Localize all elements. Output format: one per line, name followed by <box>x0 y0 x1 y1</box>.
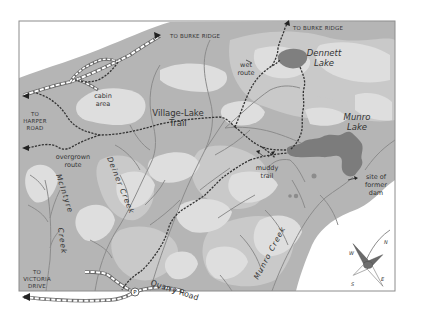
label-cabin-area-2: area <box>96 100 111 108</box>
label-munro-lake-2: Lake <box>347 122 367 132</box>
label-to-harper-road-3: ROAD <box>27 125 44 131</box>
label-cabin-area-1: cabin <box>94 92 112 100</box>
label-to-harper-road-2: HARPER <box>23 118 47 124</box>
label-munro-lake-1: Munro <box>344 112 371 122</box>
label-to-victoria-drive-2: VICTORIA <box>23 276 51 282</box>
label-muddy-trail-1: muddy <box>256 164 279 172</box>
label-site-of-former-dam-3: dam <box>369 189 383 197</box>
label-village-lake-trail-2: Trail <box>168 118 186 128</box>
label-to-burke-ridge-west: TO BURKE RIDGE <box>169 33 220 39</box>
compass-label-n: N <box>384 239 388 245</box>
label-site-of-former-dam-1: site of <box>366 173 387 181</box>
label-to-victoria-drive-1: TO <box>32 269 42 275</box>
label-overgrown-route-1: overgrown <box>56 153 90 161</box>
parking-marker: P <box>131 288 139 296</box>
label-wet-route-1: wet <box>240 61 252 69</box>
label-site-of-former-dam-2: former <box>365 181 387 189</box>
label-to-victoria-drive-3: DRIVE <box>28 283 46 289</box>
label-wet-route-2: route <box>237 69 254 77</box>
label-overgrown-route-2: route <box>64 161 81 169</box>
label-to-harper-road-1: TO <box>30 111 40 117</box>
label-muddy-trail-2: trail <box>261 172 274 180</box>
label-dennett-lake-1: Dennett <box>307 48 342 58</box>
trail-map: P TO BURKE RIDGE TO BURKE RIDGE TO HARPE… <box>0 0 429 324</box>
label-dennett-lake-2: Lake <box>314 58 334 68</box>
compass-center <box>364 262 373 269</box>
label-to-burke-ridge-east: TO BURKE RIDGE <box>292 25 343 31</box>
label-village-lake-trail-1: Village-Lake <box>152 108 203 118</box>
